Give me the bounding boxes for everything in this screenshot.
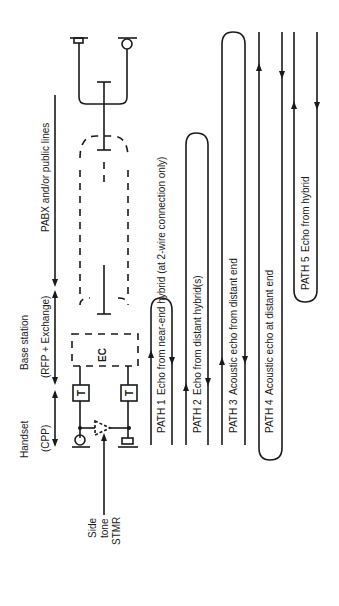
handset-earpiece-icon [122,438,133,444]
path-2-id: PATH 2 [192,399,203,433]
path-4-label: Acoustic echo at distant end [264,270,275,395]
handset-circuit [72,401,138,515]
path-2-label: Echo from distant hybrid(s) [192,276,203,396]
transmitter-bottom-label: T [124,390,135,396]
echo-paths-diagram: Handset (CPP) Base station (RFP + Exchan… [0,0,339,606]
sidetone-amplifier-icon [95,421,110,435]
path-2: PATH 2 Echo from distant hybrid(s) [183,133,211,445]
far-end-telephone [70,38,137,150]
dashed-network-lines [80,136,128,314]
path-3: PATH 3 Acoustic echo from distant end [219,32,248,445]
handset-sublabel: (CPP) [40,425,51,452]
path-3-label: Acoustic echo from distant end [228,258,239,395]
path-3-id: PATH 3 [228,399,239,433]
path-5-label: Echo from hybrid [300,176,311,252]
far-end-microphone-icon [122,39,132,49]
path-5-id: PATH 5 [300,256,311,290]
path-1-label: Echo from near-end hybrid (at 2-wire con… [156,157,167,395]
far-end-earpiece-icon [74,38,83,43]
path-5: PATH 5 Echo from hybrid [291,32,320,302]
echo-canceller-label: EC [97,348,108,362]
pabx-label: PABX and/or public lines [40,123,51,232]
sidetone-label-line2: tone [99,518,110,538]
sidetone-label-line3: STMR [111,517,122,545]
handset-label: Handset [19,421,30,458]
section-span-arrows [52,95,58,447]
path-1: PATH 1 Echo from near-end hybrid (at 2-w… [148,157,175,445]
base-station-label: Base station [19,315,30,370]
path-4: PATH 4 Acoustic echo at distant end [256,32,285,460]
base-station-sublabel: (RFP + Exchange) [40,296,51,378]
sidetone-label-line1: Side [87,518,98,538]
path-1-id: PATH 1 [156,399,167,433]
transmitter-top-label: T [76,390,87,396]
path-4-id: PATH 4 [264,399,275,433]
